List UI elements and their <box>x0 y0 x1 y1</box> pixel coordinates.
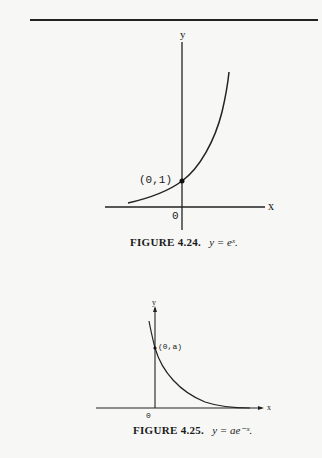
caption-equation: y = eˣ. <box>209 236 238 248</box>
fig2-origin-label: 0 <box>146 411 151 420</box>
fig1-origin-label: 0 <box>172 210 179 222</box>
figure-4-25-plot <box>96 306 264 410</box>
fig1-point-label: (0,1) <box>139 174 172 186</box>
x-arrow-icon <box>258 406 264 410</box>
caption-label: FIGURE 4.25. <box>133 424 204 436</box>
point-0-a <box>153 346 156 349</box>
figure-4-25-caption: FIGURE 4.25.y = ae⁻ˣ. <box>133 424 252 437</box>
point-0-1 <box>180 179 185 184</box>
fig2-x-label: x <box>267 403 271 412</box>
caption-label: FIGURE 4.24. <box>130 236 201 248</box>
fig2-point-label: (0,a) <box>158 342 182 351</box>
figure-4-24-plot <box>105 42 265 230</box>
fig2-y-label: y <box>152 298 156 307</box>
figure-4-24-caption: FIGURE 4.24.y = eˣ. <box>130 236 238 248</box>
fig1-y-label: y <box>180 28 186 40</box>
figures-canvas <box>0 0 322 458</box>
caption-equation: y = ae⁻ˣ. <box>212 424 252 436</box>
fig1-x-label: x <box>268 199 274 214</box>
decay-curve <box>149 321 250 408</box>
